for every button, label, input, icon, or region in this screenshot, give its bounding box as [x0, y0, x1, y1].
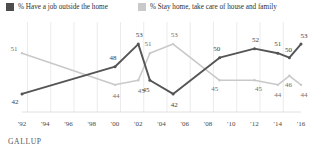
data-point-marker	[137, 79, 139, 81]
data-point-marker	[253, 79, 255, 81]
x-axis-tick-label: '98	[88, 120, 96, 128]
data-point-label: 50	[285, 46, 292, 53]
square-swatch-dark-icon	[6, 3, 14, 11]
data-point-marker	[149, 52, 151, 54]
data-point-marker	[253, 47, 256, 50]
data-point-marker	[276, 52, 279, 55]
chart-legend: % Have a job outside the home % Stay hom…	[6, 3, 309, 17]
x-axis-tick-label: '12	[250, 120, 258, 128]
data-point-label: 53	[301, 33, 308, 40]
x-axis-tick-label: '16	[297, 120, 305, 128]
x-axis-tick-label: '94	[41, 120, 49, 128]
data-point-label: 44	[113, 92, 120, 99]
data-point-label: 51	[144, 41, 151, 48]
x-axis-tick-label: '14	[274, 120, 282, 128]
data-point-label: 45	[142, 87, 149, 94]
data-point-marker	[148, 79, 151, 82]
data-point-marker	[21, 52, 23, 54]
data-point-label: 52	[252, 36, 259, 43]
data-point-label: 53	[171, 32, 178, 39]
data-point-marker	[172, 92, 175, 95]
x-axis-tick-label: '02	[134, 120, 142, 128]
data-point-label: 50	[213, 45, 220, 52]
data-point-marker	[288, 75, 290, 77]
data-point-label: 44	[301, 91, 308, 98]
legend-label-job-outside-home: % Have a job outside the home	[18, 3, 108, 11]
legend-item-job-outside-home: % Have a job outside the home	[6, 3, 108, 11]
data-point-marker	[114, 65, 117, 68]
legend-label-stay-home: % Stay home, take care of house and fami…	[150, 3, 277, 11]
data-point-label: 42	[12, 98, 19, 105]
data-point-marker	[300, 84, 302, 86]
data-point-marker	[172, 43, 174, 45]
x-axis-tick-label: '06	[181, 120, 189, 128]
data-point-label: 45	[211, 86, 218, 93]
square-swatch-light-icon	[138, 3, 146, 11]
x-axis: '92'94'96'98'00'02'04'06'08'10'12'14'16	[0, 117, 315, 133]
plot-svg	[0, 20, 315, 117]
data-point-label: 46	[285, 81, 292, 88]
x-axis-tick-label: '96	[64, 120, 72, 128]
source-attribution: GALLUP	[8, 137, 42, 146]
gallup-line-chart: % Have a job outside the home % Stay hom…	[0, 0, 315, 158]
data-point-label: 51	[274, 41, 281, 48]
data-point-marker	[218, 79, 220, 81]
x-axis-tick-label: '10	[227, 120, 235, 128]
x-axis-tick-label: '08	[204, 120, 212, 128]
data-point-label: 45	[255, 86, 262, 93]
data-point-marker	[277, 84, 279, 86]
data-point-label: 53	[136, 32, 143, 39]
data-point-marker	[288, 56, 291, 59]
plot-area: 5144455153454544464442485345425052515053	[0, 20, 315, 117]
data-point-marker	[114, 84, 116, 86]
data-point-marker	[300, 43, 303, 46]
legend-item-stay-home: % Stay home, take care of house and fami…	[138, 3, 277, 11]
data-point-marker	[218, 56, 221, 59]
data-point-label: 42	[171, 101, 178, 108]
data-point-marker	[21, 92, 24, 95]
gridlines	[28, 22, 284, 112]
data-point-label: 48	[110, 54, 117, 61]
x-axis-tick-label: '04	[157, 120, 165, 128]
data-point-marker	[137, 43, 140, 46]
data-point-label: 44	[274, 91, 281, 98]
x-axis-tick-label: '92	[18, 120, 26, 128]
data-point-label: 51	[11, 46, 18, 53]
x-axis-tick-label: '00	[111, 120, 119, 128]
